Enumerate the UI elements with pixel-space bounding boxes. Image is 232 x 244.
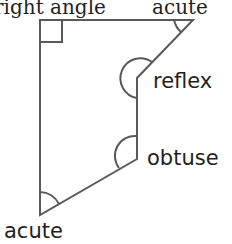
acute-top-arc — [174, 20, 181, 32]
label-right-angle: right angle — [0, 0, 106, 19]
obtuse-arc — [115, 136, 137, 168]
right-angle-marker — [40, 20, 62, 42]
label-obtuse: obtuse — [147, 146, 219, 170]
label-acute-top: acute — [152, 0, 208, 19]
pentagon-shape — [40, 20, 193, 215]
polygon-angle-diagram: right angle acute reflex obtuse acute — [0, 0, 232, 244]
label-reflex: reflex — [153, 69, 212, 93]
label-acute-bottom: acute — [4, 219, 63, 243]
acute-bottom-arc — [40, 192, 59, 204]
